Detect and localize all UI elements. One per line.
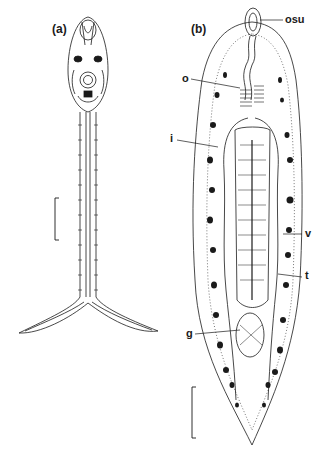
label-oesophagus: o bbox=[182, 73, 189, 84]
label-intestine: i bbox=[170, 133, 173, 144]
label-testes: t bbox=[305, 270, 309, 281]
panel-label-a: (a) bbox=[52, 23, 67, 35]
label-oral-sucker: osu bbox=[285, 14, 305, 25]
panel-a-tail-tick-marks bbox=[78, 125, 98, 290]
panel-b-scale-bar bbox=[192, 387, 196, 438]
label-genital: g bbox=[186, 328, 193, 339]
panel-a-scale-bar bbox=[55, 198, 59, 240]
panel-label-b: (b) bbox=[191, 23, 206, 35]
figure-canvas bbox=[0, 0, 330, 461]
label-vitellaria: v bbox=[305, 228, 311, 239]
panel-a-cercaria-drawing bbox=[19, 17, 158, 333]
panel-b-adult-drawing bbox=[193, 8, 302, 445]
